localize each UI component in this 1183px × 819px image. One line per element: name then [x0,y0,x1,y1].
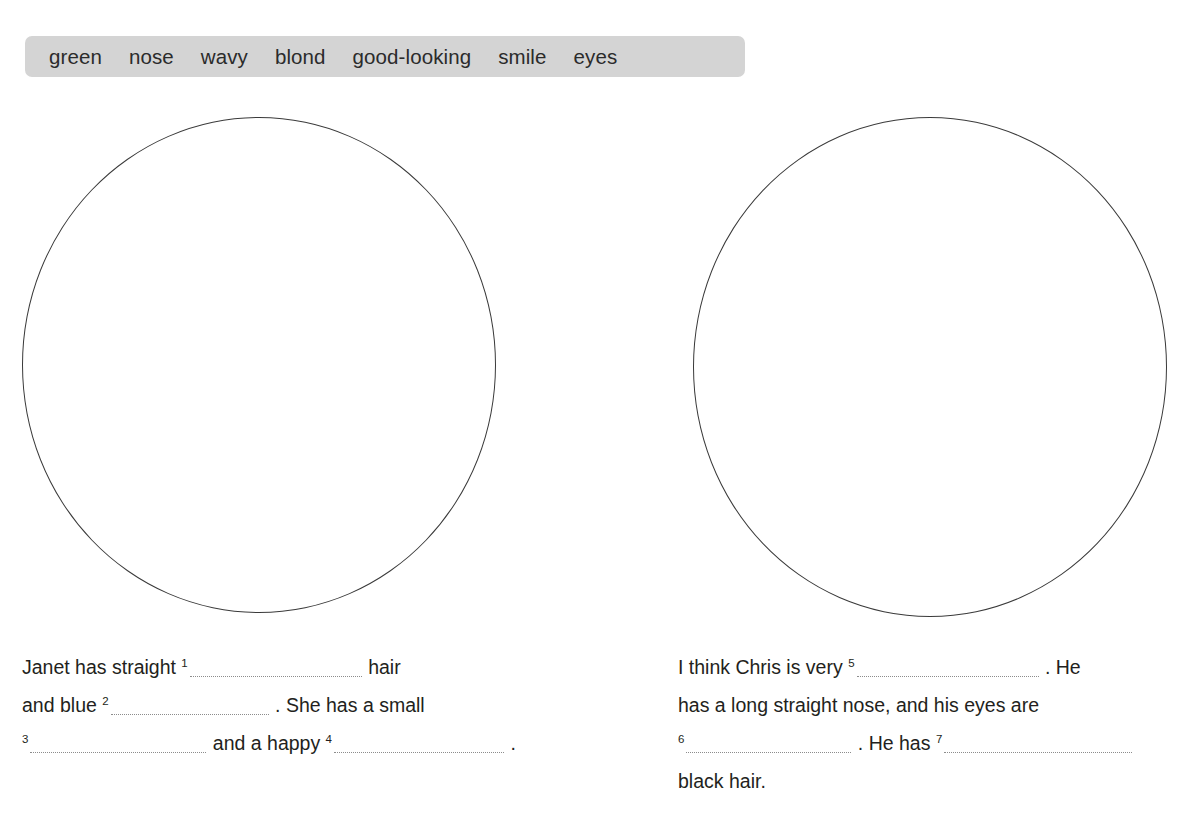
word-bank-item-eyes[interactable]: eyes [574,45,618,69]
word-bank-item-wavy[interactable]: wavy [201,45,248,69]
word-bank-item-blond[interactable]: blond [275,45,326,69]
blank-number-1: 1 [181,657,188,669]
chris-line1-text-b: . He [1040,656,1081,678]
answer-blank-4[interactable] [334,733,504,753]
chris-line-2: has a long straight nose, and his eyes a… [678,686,1168,724]
answer-blank-6[interactable] [686,733,851,753]
chris-face-circle[interactable] [693,117,1167,617]
blank-number-7: 7 [936,733,943,745]
word-bank-item-green[interactable]: green [49,45,102,69]
janet-description-text: Janet has straight 1 hair and blue 2 . S… [22,648,582,762]
janet-line2-text-b: . She has a small [270,694,425,716]
answer-blank-5[interactable] [857,657,1039,677]
blank-number-6: 6 [678,733,685,745]
janet-line3-text-b: . [505,732,516,754]
blank-number-2: 2 [102,695,109,707]
chris-line-3: 6 . He has 7 [678,724,1168,762]
janet-line-2: and blue 2 . She has a small [22,686,582,724]
chris-line-1: I think Chris is very 5 . He [678,648,1168,686]
word-bank-item-good-looking[interactable]: good-looking [353,45,472,69]
janet-line3-text-a: and a happy [207,732,325,754]
chris-line3-text-a: . He has [852,732,935,754]
janet-face-circle[interactable] [22,117,496,613]
answer-blank-3[interactable] [30,733,206,753]
word-bank: green nose wavy blond good-looking smile… [25,36,745,77]
word-bank-item-smile[interactable]: smile [498,45,546,69]
chris-description-text: I think Chris is very 5 . He has a long … [678,648,1168,800]
blank-number-4: 4 [326,733,333,745]
janet-line-3: 3 and a happy 4 . [22,724,582,762]
word-bank-item-nose[interactable]: nose [129,45,174,69]
chris-line-4: black hair. [678,762,1168,800]
janet-line1-text-b: hair [363,656,401,678]
answer-blank-1[interactable] [190,657,362,677]
blank-number-3: 3 [22,733,29,745]
blank-number-5: 5 [848,657,855,669]
answer-blank-2[interactable] [111,695,269,715]
janet-line-1: Janet has straight 1 hair [22,648,582,686]
chris-line1-text-a: I think Chris is very [678,656,848,678]
janet-line2-text-a: and blue [22,694,102,716]
janet-line1-text-a: Janet has straight [22,656,181,678]
answer-blank-7[interactable] [944,733,1132,753]
